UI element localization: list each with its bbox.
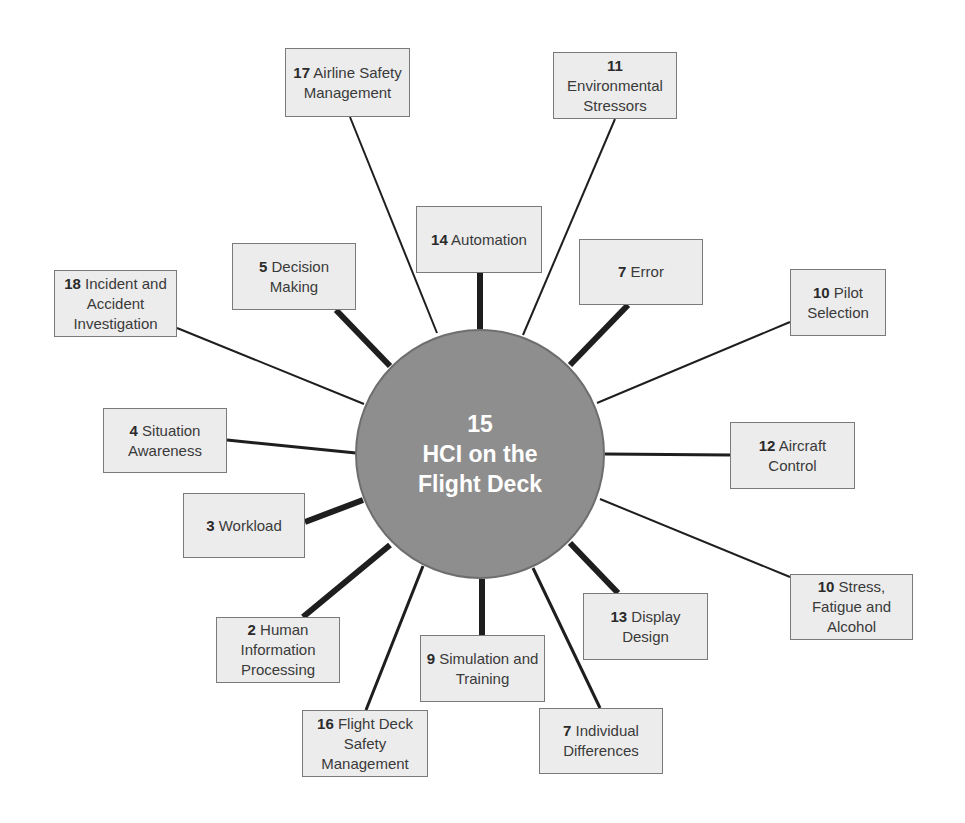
topic-label: Incident and Accident Investigation xyxy=(73,275,166,332)
connector-n4 xyxy=(227,440,356,453)
topic-node-n12: 12 Aircraft Control xyxy=(730,422,855,489)
topic-label: Simulation and Training xyxy=(435,650,538,687)
topic-label: Situation Awareness xyxy=(128,422,202,459)
topic-label: Individual Differences xyxy=(563,722,639,759)
connector-n3 xyxy=(305,500,363,522)
topic-node-n7i: 7 Individual Differences xyxy=(539,708,663,774)
hci-flight-deck-diagram: 15 HCI on the Flight Deck 17 Airline Saf… xyxy=(0,0,965,823)
topic-label: Airline Safety Management xyxy=(304,64,402,101)
topic-node-n14: 14 Automation xyxy=(416,206,542,273)
topic-node-n16: 16 Flight Deck Safety Management xyxy=(302,710,428,777)
topic-number: 17 xyxy=(293,64,310,81)
topic-label: Workload xyxy=(215,517,282,534)
topic-number: 14 xyxy=(431,231,448,248)
topic-label: Decision Making xyxy=(267,258,329,295)
topic-number: 16 xyxy=(317,715,334,732)
connector-n18 xyxy=(177,328,364,404)
connector-n13 xyxy=(570,543,618,593)
topic-number: 11 xyxy=(607,57,623,74)
topic-number: 10 xyxy=(818,578,835,595)
connector-n2 xyxy=(303,545,390,617)
central-topic-hub: 15 HCI on the Flight Deck xyxy=(355,329,605,579)
topic-label: Flight Deck Safety Management xyxy=(321,715,413,772)
topic-node-n17: 17 Airline Safety Management xyxy=(285,48,410,117)
topic-node-n2: 2 Human Information Processing xyxy=(216,617,340,683)
topic-node-n7e: 7 Error xyxy=(579,239,703,305)
topic-label: Display Design xyxy=(622,608,680,645)
topic-node-n9: 9 Simulation and Training xyxy=(420,635,545,702)
topic-label: Automation xyxy=(448,231,527,248)
topic-label: Aircraft Control xyxy=(768,437,826,474)
topic-node-n11: 11 Environmental Stressors xyxy=(553,52,677,119)
topic-number: 13 xyxy=(610,608,627,625)
topic-label: Error xyxy=(626,263,664,280)
topic-number: 3 xyxy=(206,517,214,534)
topic-number: 2 xyxy=(248,621,256,638)
hub-number: 15 xyxy=(467,409,493,439)
connector-n12 xyxy=(605,454,730,455)
topic-number: 9 xyxy=(427,650,435,667)
connector-n10p xyxy=(597,322,790,403)
topic-node-n18: 18 Incident and Accident Investigation xyxy=(54,270,177,337)
topic-node-n3: 3 Workload xyxy=(183,493,305,558)
topic-node-n5: 5 Decision Making xyxy=(232,243,356,310)
topic-number: 12 xyxy=(759,437,776,454)
connector-n10s xyxy=(600,499,790,577)
topic-number: 18 xyxy=(64,275,81,292)
hub-title-line1: HCI on the xyxy=(423,439,538,469)
hub-title-line2: Flight Deck xyxy=(418,469,542,499)
connector-n16 xyxy=(366,566,423,710)
topic-number: 10 xyxy=(813,284,830,301)
topic-node-n4: 4 Situation Awareness xyxy=(103,408,227,473)
connector-n5 xyxy=(336,310,390,366)
topic-label: Environmental Stressors xyxy=(567,77,663,114)
topic-node-n13: 13 Display Design xyxy=(583,593,708,660)
topic-number: 4 xyxy=(130,422,138,439)
connector-n7e xyxy=(570,305,628,365)
topic-node-n10p: 10 Pilot Selection xyxy=(790,269,886,336)
topic-node-n10s: 10 Stress, Fatigue and Alcohol xyxy=(790,574,913,640)
